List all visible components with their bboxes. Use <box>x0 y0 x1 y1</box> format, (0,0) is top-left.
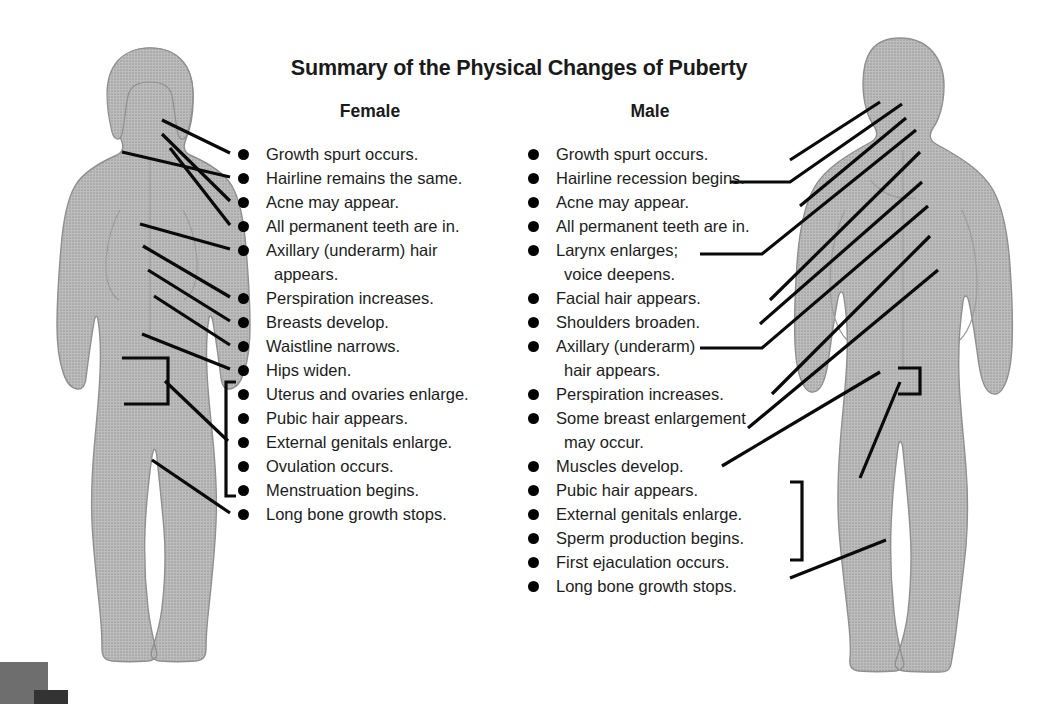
bullet-icon <box>528 293 539 304</box>
male-changes-list: Growth spurt occurs.Hairline recession b… <box>528 142 828 598</box>
list-item-label: External genitals enlarge. <box>238 430 528 454</box>
list-item: Acne may appear. <box>528 190 828 214</box>
list-item-label: Waistline narrows. <box>238 334 528 358</box>
list-item-label: Axillary (underarm) <box>528 334 828 358</box>
list-item-label: Pubic hair appears. <box>528 478 828 502</box>
list-item: Perspiration increases. <box>238 286 528 310</box>
bullet-icon <box>528 557 539 568</box>
bullet-icon <box>528 245 539 256</box>
list-item: Ovulation occurs. <box>238 454 528 478</box>
list-item-label: Acne may appear. <box>238 190 528 214</box>
corner-dark-block <box>34 690 68 704</box>
list-item-label: Facial hair appears. <box>528 286 828 310</box>
bullet-icon <box>528 173 539 184</box>
list-item: Axillary (underarm) <box>528 334 828 358</box>
bullet-icon <box>238 245 249 256</box>
bullet-icon <box>528 533 539 544</box>
list-item-label: Sperm production begins. <box>528 526 828 550</box>
list-item: External genitals enlarge. <box>528 502 828 526</box>
bullet-icon <box>238 365 249 376</box>
list-item-label: Menstruation begins. <box>238 478 528 502</box>
list-item: Waistline narrows. <box>238 334 528 358</box>
poster-canvas: Summary of the Physical Changes of Puber… <box>0 0 1038 704</box>
list-item-continuation: may occur. <box>528 430 828 454</box>
list-item: Growth spurt occurs. <box>238 142 528 166</box>
female-body-silhouette <box>57 48 250 662</box>
list-item: Sperm production begins. <box>528 526 828 550</box>
list-item-label: Acne may appear. <box>528 190 828 214</box>
list-item: Acne may appear. <box>238 190 528 214</box>
list-item-label: All permanent teeth are in. <box>238 214 528 238</box>
list-item: Hairline recession begins. <box>528 166 828 190</box>
list-item-label: Growth spurt occurs. <box>238 142 528 166</box>
female-list-bracket <box>226 382 236 496</box>
list-item: Long bone growth stops. <box>528 574 828 598</box>
list-item: Uterus and ovaries enlarge. <box>238 382 528 406</box>
bullet-icon <box>528 317 539 328</box>
female-column-heading: Female <box>280 101 460 122</box>
list-item: Pubic hair appears. <box>238 406 528 430</box>
list-item-label: voice deepens. <box>528 262 828 286</box>
list-item-label: Long bone growth stops. <box>528 574 828 598</box>
list-item-label: Ovulation occurs. <box>238 454 528 478</box>
list-item-continuation: appears. <box>238 262 528 286</box>
list-item-label: All permanent teeth are in. <box>528 214 828 238</box>
list-item-label: appears. <box>238 262 528 286</box>
list-item: Larynx enlarges; <box>528 238 828 262</box>
list-item-label: Perspiration increases. <box>528 382 828 406</box>
list-item-label: Hairline remains the same. <box>238 166 528 190</box>
list-item: Muscles develop. <box>528 454 828 478</box>
list-item-label: Larynx enlarges; <box>528 238 828 262</box>
bullet-icon <box>238 341 249 352</box>
bullet-icon <box>238 317 249 328</box>
female-leader-lines <box>122 120 230 513</box>
list-item-label: Breasts develop. <box>238 310 528 334</box>
list-item: Long bone growth stops. <box>238 502 528 526</box>
list-item-continuation: hair appears. <box>528 358 828 382</box>
list-item-label: Growth spurt occurs. <box>528 142 828 166</box>
bullet-icon <box>238 485 249 496</box>
bullet-icon <box>238 461 249 472</box>
list-item-label: Axillary (underarm) hair <box>238 238 528 262</box>
list-item-label: Hairline recession begins. <box>528 166 828 190</box>
list-item: All permanent teeth are in. <box>528 214 828 238</box>
bullet-icon <box>238 197 249 208</box>
list-item-label: External genitals enlarge. <box>528 502 828 526</box>
page-title: Summary of the Physical Changes of Puber… <box>0 56 1038 81</box>
list-item-label: Uterus and ovaries enlarge. <box>238 382 528 406</box>
bullet-icon <box>528 413 539 424</box>
list-item: External genitals enlarge. <box>238 430 528 454</box>
bullet-icon <box>528 221 539 232</box>
list-item-label: Pubic hair appears. <box>238 406 528 430</box>
bullet-icon <box>528 581 539 592</box>
list-item-label: Some breast enlargement <box>528 406 828 430</box>
bullet-icon <box>238 437 249 448</box>
female-changes-list: Growth spurt occurs.Hairline remains the… <box>238 142 528 526</box>
bullet-icon <box>528 461 539 472</box>
list-item: All permanent teeth are in. <box>238 214 528 238</box>
bullet-icon <box>238 149 249 160</box>
list-item-label: Long bone growth stops. <box>238 502 528 526</box>
list-item-label: Hips widen. <box>238 358 528 382</box>
list-item-label: Shoulders broaden. <box>528 310 828 334</box>
list-item: Hips widen. <box>238 358 528 382</box>
list-item-label: may occur. <box>528 430 828 454</box>
list-item: Facial hair appears. <box>528 286 828 310</box>
list-item-label: First ejaculation occurs. <box>528 550 828 574</box>
list-item-label: hair appears. <box>528 358 828 382</box>
bullet-icon <box>528 485 539 496</box>
list-item: Some breast enlargement <box>528 406 828 430</box>
male-column-heading: Male <box>570 101 730 122</box>
list-item-continuation: voice deepens. <box>528 262 828 286</box>
bullet-icon <box>238 221 249 232</box>
bullet-icon <box>238 389 249 400</box>
bullet-icon <box>528 509 539 520</box>
list-item: Perspiration increases. <box>528 382 828 406</box>
list-item: Axillary (underarm) hair <box>238 238 528 262</box>
list-item: First ejaculation occurs. <box>528 550 828 574</box>
bullet-icon <box>528 341 539 352</box>
bullet-icon <box>528 197 539 208</box>
bullet-icon <box>528 389 539 400</box>
list-item: Menstruation begins. <box>238 478 528 502</box>
list-item: Growth spurt occurs. <box>528 142 828 166</box>
